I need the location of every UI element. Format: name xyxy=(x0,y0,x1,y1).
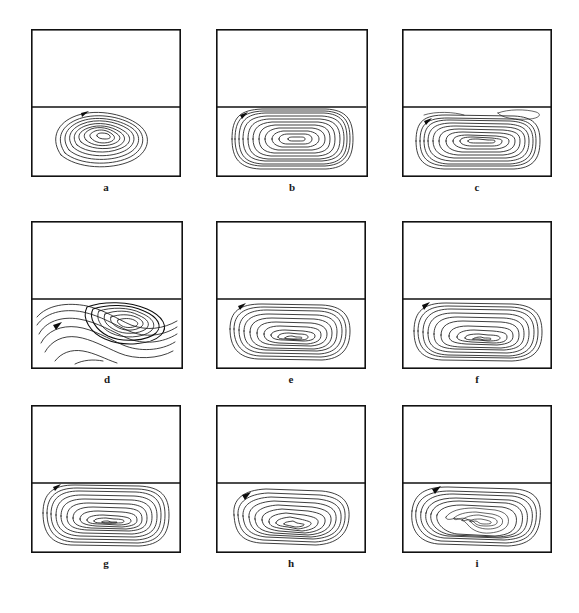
panel-label-b: b xyxy=(216,181,368,193)
panel-c-plot xyxy=(402,29,552,177)
panel-label-a: a xyxy=(31,181,181,193)
panel-h: h xyxy=(216,405,366,553)
panel-b-plot xyxy=(216,29,368,177)
panel-label-h: h xyxy=(216,557,366,569)
panel-label-e: e xyxy=(216,373,366,385)
figure-root: a b xyxy=(0,0,579,613)
panel-label-g: g xyxy=(31,557,181,569)
panel-label-f: f xyxy=(402,373,552,385)
panel-g-plot xyxy=(31,405,181,553)
cavity-outline xyxy=(217,30,367,176)
panel-i-plot xyxy=(402,405,552,553)
cavity-outline xyxy=(217,406,365,552)
cavity-outline xyxy=(403,222,551,368)
panel-c: c xyxy=(402,29,552,177)
panel-g: g xyxy=(31,405,181,553)
panel-d: d xyxy=(31,221,183,369)
panel-i: i xyxy=(402,405,552,553)
panel-e: e xyxy=(216,221,366,369)
panel-b: b xyxy=(216,29,368,177)
panel-a-plot xyxy=(31,29,181,177)
panel-f: f xyxy=(402,221,552,369)
panel-label-d: d xyxy=(31,373,183,385)
panel-a: a xyxy=(31,29,181,177)
panel-f-plot xyxy=(402,221,552,369)
panel-label-i: i xyxy=(402,557,552,569)
cavity-outline xyxy=(32,222,182,368)
panel-h-plot xyxy=(216,405,366,553)
panel-label-c: c xyxy=(402,181,552,193)
cavity-outline xyxy=(403,30,551,176)
cavity-outline xyxy=(32,30,180,176)
panel-d-plot xyxy=(31,221,183,369)
panel-e-plot xyxy=(216,221,366,369)
